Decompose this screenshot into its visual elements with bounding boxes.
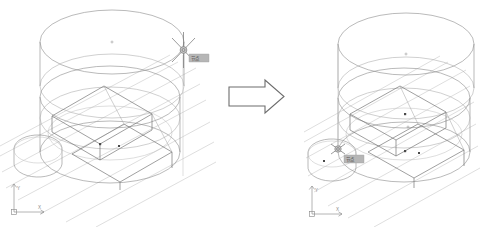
ucs-y-axis-label: Y (17, 186, 20, 191)
panel-before: 节点 Y X (0, 0, 225, 227)
large-cylinder-before (40, 66, 180, 183)
top-circle-center-marker-after (405, 53, 408, 56)
ucs-x-axis-label: X (38, 205, 41, 210)
panel-after: 节点 Y X (290, 0, 487, 227)
snap-tooltip-after: 节点 (344, 155, 364, 163)
top-cylinder-lid-before (40, 10, 184, 118)
ucs-icon-after: Y X (309, 186, 342, 217)
ucs-y-axis-label: Y (315, 188, 318, 193)
large-cylinder-after (338, 68, 470, 182)
diagram-canvas: 节点 Y X (0, 0, 487, 227)
arrow-drawing (225, 0, 290, 227)
inner-box-wedge-after (350, 86, 464, 188)
node-osnap-marker-after[interactable] (331, 144, 345, 154)
after-wireframe-drawing: 节点 Y X (290, 0, 487, 227)
ucs-x-axis-label: X (336, 207, 339, 212)
right-block-arrow-icon (229, 80, 284, 113)
before-wireframe-drawing: 节点 Y X (0, 0, 225, 227)
top-circle-center-marker-before (111, 41, 114, 44)
construction-rays-before (0, 55, 216, 227)
edge-node-dots-before (99, 143, 120, 147)
panel-transition-arrow (225, 0, 290, 227)
node-osnap-marker-before[interactable] (172, 32, 195, 68)
snap-tooltip-before: 节点 (189, 54, 209, 62)
construction-rays-after (304, 56, 480, 227)
